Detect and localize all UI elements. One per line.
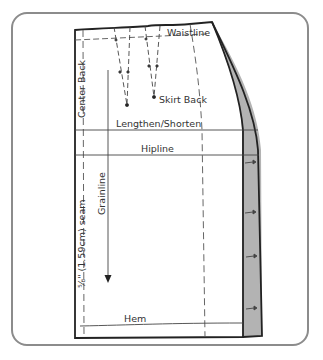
waistline-label: Waistline [167, 27, 210, 38]
side-seamline [190, 24, 205, 337]
hipline-label: Hipline [141, 143, 174, 154]
skirt-back-label: Skirt Back [159, 94, 207, 105]
lengthen-shorten-label: Lengthen/Shorten [116, 118, 201, 129]
grainline-arrowhead [105, 275, 112, 283]
skirt-pattern-diagram: Waistline Skirt Back Lengthen/Shorten Hi… [0, 0, 323, 360]
hem-line [80, 323, 243, 326]
grainline-label: Grainline [96, 172, 107, 215]
dart-1 [114, 27, 130, 107]
hem-label: Hem [124, 313, 146, 324]
center-back-label: Center Back [76, 59, 87, 118]
added-width-strip [212, 22, 262, 337]
seam-allowance-label: ⅝" (1.59cm) seam [76, 199, 87, 288]
